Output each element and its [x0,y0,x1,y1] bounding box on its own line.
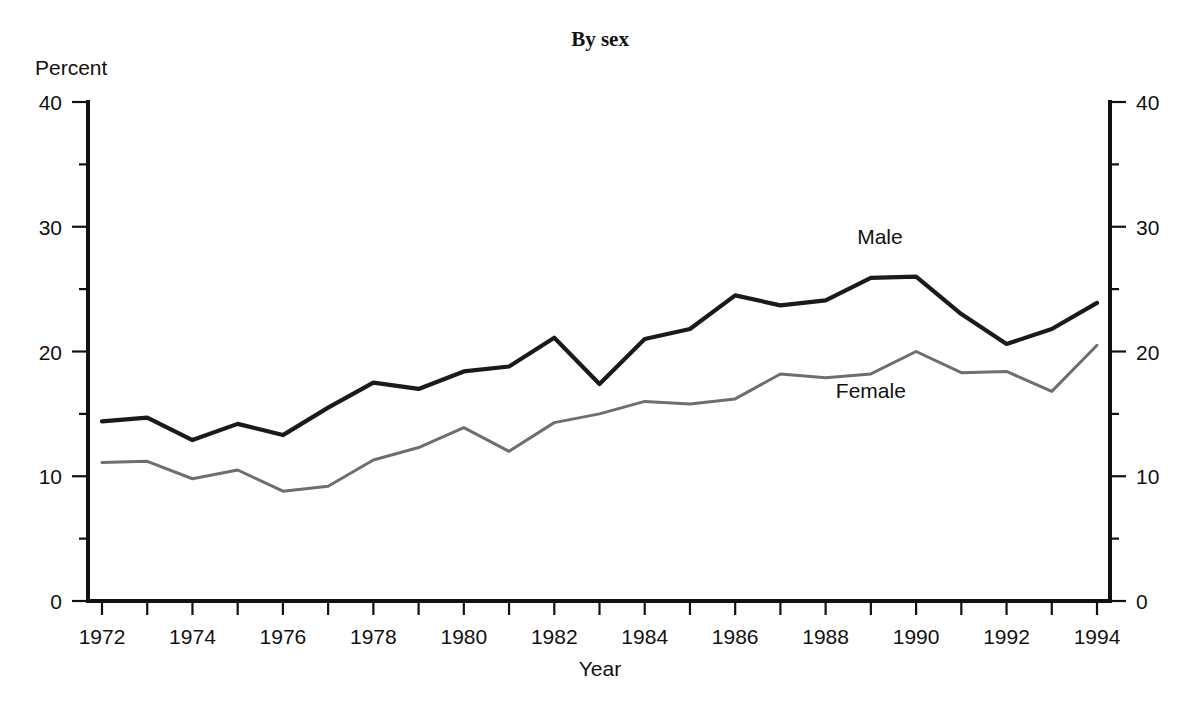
y-tick-label-left: 10 [39,465,62,488]
y-axis-left-labels: 010203040 [39,91,62,613]
y-tick-label-right: 0 [1136,590,1148,613]
series-line-male [102,277,1097,440]
y-tick-label-right: 30 [1136,216,1159,239]
x-tick-label: 1990 [893,625,940,648]
x-tick-label: 1992 [983,625,1030,648]
x-tick-label: 1974 [169,625,216,648]
y-tick-label-right: 10 [1136,465,1159,488]
chart-title: By sex [571,27,629,51]
x-tick-label: 1972 [79,625,126,648]
y-tick-label-left: 30 [39,216,62,239]
x-tick-label: 1976 [260,625,307,648]
y-axis-right-ticks [1110,102,1126,601]
chart-figure: By sex Percent Year 010203040 010203040 … [0,0,1200,714]
x-axis-ticks [102,601,1097,615]
series-line-female [102,345,1097,491]
x-tick-label: 1980 [440,625,487,648]
x-tick-label: 1982 [531,625,578,648]
y-axis-left-ticks [72,102,88,601]
series-lines [102,277,1097,492]
y-tick-label-right: 40 [1136,91,1159,114]
y-tick-label-left: 40 [39,91,62,114]
y-axis-right-labels: 010203040 [1136,91,1159,613]
series-label-male: Male [857,225,903,248]
axis-frame [88,102,1110,601]
y-tick-label-left: 0 [50,590,62,613]
series-label-female: Female [836,379,906,402]
x-tick-label: 1978 [350,625,397,648]
x-tick-label: 1986 [712,625,759,648]
x-tick-label: 1994 [1074,625,1121,648]
x-tick-label: 1984 [621,625,668,648]
y-axis-title: Percent [35,56,108,79]
y-tick-label-left: 20 [39,341,62,364]
line-chart: By sex Percent Year 010203040 010203040 … [0,0,1200,714]
x-axis-labels: 1972197419761978198019821984198619881990… [79,625,1121,648]
y-tick-label-right: 20 [1136,341,1159,364]
x-tick-label: 1988 [802,625,849,648]
x-axis-title: Year [579,657,621,680]
